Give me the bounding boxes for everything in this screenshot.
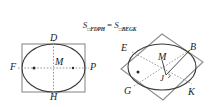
focus-dot-right-figure	[137, 71, 140, 74]
label-E: E	[121, 43, 127, 53]
label-K: K	[188, 87, 195, 97]
right-angle-mark-icon	[168, 74, 170, 78]
label-M-left: M	[55, 57, 63, 67]
label-P: P	[90, 62, 96, 72]
label-J: J	[160, 74, 164, 83]
focus-dot-left	[33, 67, 36, 70]
label-H: H	[50, 92, 57, 102]
diagram-canvas: S□FDPH=S□BEGK D H F P M E B G K	[0, 0, 219, 107]
label-D: D	[50, 33, 57, 43]
focus-dot-right	[72, 67, 74, 69]
label-F: F	[10, 62, 16, 72]
label-G: G	[124, 86, 131, 96]
formula-equals-sign: =	[105, 20, 114, 30]
label-B: B	[190, 42, 196, 52]
label-M-right: M	[158, 52, 166, 62]
figure-ellipse-in-rotated-rectangle: E B G K M J	[106, 30, 219, 107]
segment-JB	[166, 50, 190, 75]
figure-ellipse-in-rectangle: D H F P M	[10, 36, 105, 104]
formula-left-subscript: FDPH	[90, 26, 105, 32]
